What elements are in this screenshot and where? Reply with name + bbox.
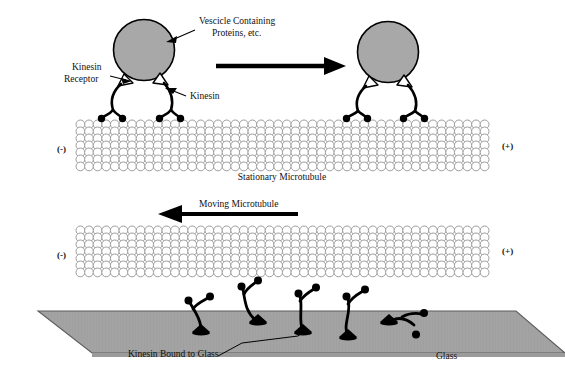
tubulin-subunit: [351, 162, 360, 171]
moving-microtubule: [76, 226, 489, 277]
tubulin-subunit: [231, 268, 240, 277]
tubulin-subunit: [454, 268, 463, 277]
moving-microtubule-lattice: [76, 226, 489, 277]
tubulin-subunit: [257, 162, 266, 171]
tubulin-subunit: [179, 162, 188, 171]
tubulin-subunit: [188, 162, 197, 171]
tubulin-subunit: [119, 268, 128, 277]
tubulin-subunit: [222, 268, 231, 277]
tubulin-subunit: [300, 162, 309, 171]
tubulin-subunit: [334, 162, 343, 171]
tubulin-subunit: [239, 162, 248, 171]
tubulin-subunit: [274, 268, 283, 277]
tubulin-subunit: [360, 268, 369, 277]
vesicle-left: [114, 20, 175, 81]
tubulin-subunit: [334, 268, 343, 277]
tubulin-subunit: [231, 162, 240, 171]
tubulin-subunit: [429, 162, 438, 171]
tubulin-subunit: [480, 162, 489, 171]
vesicle-label-line2: Proteins, etc.: [212, 28, 261, 38]
tubulin-subunit: [257, 268, 266, 277]
tubulin-subunit: [248, 268, 257, 277]
vesicle-label-line1: Vescicle Containing: [199, 16, 275, 26]
tubulin-subunit: [403, 162, 412, 171]
tubulin-subunit: [76, 268, 85, 277]
tubulin-subunit: [446, 162, 455, 171]
tubulin-subunit: [119, 162, 128, 171]
tubulin-subunit: [437, 268, 446, 277]
tubulin-subunit: [205, 162, 214, 171]
tubulin-subunit: [386, 268, 395, 277]
moving-microtubule-label: Moving Microtubule: [199, 199, 278, 209]
bottom-panel: Moving Microtubule (-) (+): [38, 199, 565, 361]
tubulin-subunit: [110, 162, 119, 171]
tubulin-subunit: [403, 268, 412, 277]
plus-end-label-bottom: (+): [502, 246, 513, 256]
tubulin-subunit: [420, 162, 429, 171]
tubulin-subunit: [394, 268, 403, 277]
tubulin-subunit: [317, 268, 326, 277]
kinesin-motility-diagram: Vescicle Containing Proteins, etc. Kines…: [0, 0, 565, 389]
tubulin-subunit: [128, 162, 137, 171]
tubulin-subunit: [214, 268, 223, 277]
tubulin-subunit: [196, 268, 205, 277]
tubulin-subunit: [102, 162, 111, 171]
tubulin-subunit: [265, 268, 274, 277]
tubulin-subunit: [282, 162, 291, 171]
tubulin-subunit: [308, 162, 317, 171]
tubulin-subunit: [282, 268, 291, 277]
tubulin-subunit: [162, 162, 171, 171]
tubulin-subunit: [93, 162, 102, 171]
tubulin-subunit: [343, 162, 352, 171]
diagram-canvas: Vescicle Containing Proteins, etc. Kines…: [0, 0, 565, 389]
kinesin-receptor-label-line2: Receptor: [64, 74, 99, 84]
tubulin-subunit: [145, 162, 154, 171]
kinesin-receptor-label-line1: Kinesin: [72, 62, 102, 72]
tubulin-subunit: [145, 268, 154, 277]
tubulin-subunit: [291, 268, 300, 277]
tubulin-subunit: [411, 162, 420, 171]
tubulin-subunit: [188, 268, 197, 277]
tubulin-subunit: [136, 268, 145, 277]
vesicle-right: [358, 22, 419, 83]
tubulin-subunit: [171, 162, 180, 171]
tubulin-subunit: [343, 268, 352, 277]
tubulin-subunit: [179, 268, 188, 277]
tubulin-subunit: [214, 162, 223, 171]
tubulin-subunit: [102, 268, 111, 277]
tubulin-subunit: [368, 268, 377, 277]
transport-direction-arrow: [216, 57, 346, 75]
tubulin-subunit: [308, 268, 317, 277]
tubulin-subunit: [360, 162, 369, 171]
tubulin-subunit: [377, 268, 386, 277]
stationary-microtubule-lattice: [76, 120, 489, 171]
tubulin-subunit: [153, 162, 162, 171]
tubulin-subunit: [454, 162, 463, 171]
minus-end-label-bottom: (-): [57, 250, 66, 260]
top-panel: Vescicle Containing Proteins, etc. Kines…: [57, 16, 513, 182]
stationary-microtubule-caption: Stationary Microtubule: [238, 172, 326, 182]
tubulin-subunit: [446, 268, 455, 277]
kinesin-motor-right-a: [343, 86, 371, 122]
plus-end-label-top: (+): [502, 141, 513, 151]
tubulin-subunit: [93, 268, 102, 277]
tubulin-subunit: [76, 162, 85, 171]
tubulin-subunit: [463, 162, 472, 171]
tubulin-subunit: [274, 162, 283, 171]
tubulin-subunit: [480, 268, 489, 277]
tubulin-subunit: [394, 162, 403, 171]
tubulin-subunit: [196, 162, 205, 171]
tubulin-subunit: [386, 162, 395, 171]
tubulin-subunit: [153, 268, 162, 277]
kinesin-motor-left-a: [98, 84, 126, 122]
kinesin-bound-to-glass-label: Kinesin Bound to Glass: [128, 349, 219, 359]
tubulin-subunit: [162, 268, 171, 277]
tubulin-subunit: [110, 268, 119, 277]
tubulin-subunit: [265, 162, 274, 171]
tubulin-subunit: [325, 268, 334, 277]
stationary-microtubule: [76, 120, 489, 171]
tubulin-subunit: [300, 268, 309, 277]
vesicle-left-group: [98, 20, 184, 123]
tubulin-subunit: [463, 268, 472, 277]
tubulin-subunit: [377, 162, 386, 171]
